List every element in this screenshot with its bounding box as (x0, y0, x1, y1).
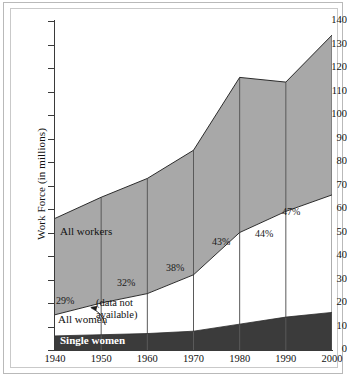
pct-label-1940: 29% (56, 295, 74, 306)
label-all-workers: All workers (60, 225, 112, 237)
y-tick-mark-140 (48, 21, 55, 22)
y-tick-mark-120 (48, 68, 55, 69)
label-data-not-available: (data not available) (96, 297, 170, 321)
y-tick-mark-70 (48, 186, 55, 187)
y-tick-mark-110 (48, 92, 55, 93)
y-tick-mark-40 (48, 256, 55, 257)
x-tick-label-1940: 1940 (45, 353, 66, 364)
y-tick-mark-20 (48, 303, 55, 304)
y-tick-mark-100 (48, 115, 55, 116)
pct-label-1955: 32% (117, 277, 135, 288)
work-force-area-chart: Work Force (in millions) 140130120110100… (0, 0, 347, 380)
pct-label-1988: 44% (255, 228, 273, 239)
x-tick-label-2000: 2000 (322, 353, 343, 364)
y-tick-mark-60 (48, 209, 55, 210)
y-tick-mark-0 (48, 350, 55, 351)
pct-label-1970: 38% (166, 262, 184, 273)
x-tick-label-1990: 1990 (275, 353, 296, 364)
x-tick-label-1980: 1980 (229, 353, 250, 364)
x-tick-label-1950: 1950 (91, 353, 112, 364)
y-tick-mark-50 (48, 233, 55, 234)
y-tick-mark-130 (48, 45, 55, 46)
y-tick-mark-80 (48, 162, 55, 163)
y-tick-mark-30 (48, 280, 55, 281)
y-tick-mark-10 (48, 327, 55, 328)
label-single-women: Single women (60, 334, 125, 346)
y-tick-mark-90 (48, 139, 55, 140)
pct-label-1996: 47% (282, 206, 300, 217)
y-axis-title: Work Force (in millions) (35, 94, 47, 274)
pct-label-1980: 43% (212, 236, 230, 247)
x-tick-label-1960: 1960 (137, 353, 158, 364)
x-tick-label-1970: 1970 (183, 353, 204, 364)
